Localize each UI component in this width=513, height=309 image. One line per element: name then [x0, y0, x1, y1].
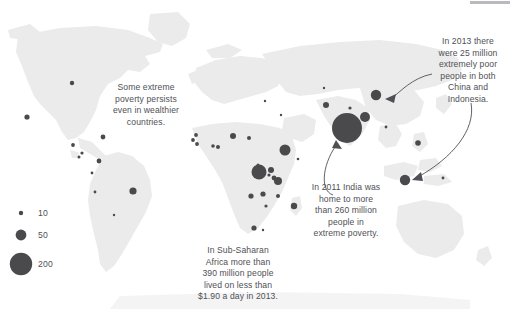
bubble-senegal — [191, 138, 195, 142]
top-right-scrollbar[interactable] — [470, 1, 510, 4]
bubble-south-africa — [251, 225, 256, 230]
bubble-russia — [323, 87, 325, 89]
bubble-mozambique — [276, 194, 280, 198]
bubble-philippines — [415, 140, 421, 146]
legend-bubble-10 — [19, 211, 23, 215]
legend-label-50: 50 — [38, 230, 48, 240]
bubble-niger — [230, 133, 236, 139]
bubble-indonesia — [400, 175, 410, 185]
bubble-zimbabwe — [264, 204, 267, 207]
annotation-sub-saharan-africa: In Sub-Saharan Africa more than 390 mill… — [183, 245, 293, 303]
legend-label-200: 200 — [38, 259, 53, 269]
bubble-bangladesh — [360, 112, 370, 122]
bubble-colombia — [97, 159, 102, 164]
bubble-brazil — [129, 187, 136, 194]
bubble-ethiopia — [268, 167, 274, 173]
legend-bubble-layer — [10, 211, 32, 275]
annotation-india: In 2011 India was home to more than 260 … — [294, 182, 398, 240]
bubble-guinea — [195, 142, 199, 146]
bubble-peru — [91, 172, 94, 175]
bubble-pakistan — [323, 102, 329, 108]
bubble-mexico — [101, 135, 106, 140]
bubble-guatemala — [71, 143, 75, 147]
bubble-angola — [248, 193, 253, 198]
bubble-zambia — [260, 191, 265, 196]
bubble-dr-congo — [252, 165, 267, 180]
bubble-nepal — [348, 106, 351, 109]
bubble-uganda — [267, 173, 270, 176]
annotation-china-indonesia: In 2013 there were 25 million extremely … — [424, 36, 512, 106]
poverty-map-figure: Some extreme poverty persists even in we… — [0, 0, 513, 309]
legend-bubble-200 — [10, 253, 32, 275]
bubble-mali — [211, 144, 215, 148]
bubble-burkina-faso — [216, 145, 220, 149]
bubble-turkey — [280, 114, 282, 116]
legend-label-10: 10 — [38, 208, 48, 218]
legend-bubble-50 — [16, 230, 27, 241]
bubble-myanmar — [385, 126, 388, 129]
bubble-argentina — [113, 214, 115, 216]
bubble-ghana — [247, 136, 251, 140]
bubble-papua-new-guinea — [442, 177, 445, 180]
bubble-china — [371, 90, 381, 100]
bubble-morocco — [194, 133, 198, 137]
bubble-honduras — [80, 151, 83, 154]
bubble-tanzania — [274, 177, 282, 185]
bubble-ukraine — [264, 100, 266, 102]
annotation-wealthier-countries: Some extreme poverty persists even in we… — [96, 82, 196, 128]
bubble-canada — [70, 81, 74, 85]
bubble-bolivia — [94, 191, 97, 194]
bubble-haiti — [78, 156, 81, 159]
bubble-united-states — [24, 114, 29, 119]
bubble-yemen — [297, 158, 300, 161]
bubble-lesotho — [262, 229, 264, 231]
bubble-nigeria — [280, 145, 291, 156]
bubble-india — [332, 113, 362, 143]
